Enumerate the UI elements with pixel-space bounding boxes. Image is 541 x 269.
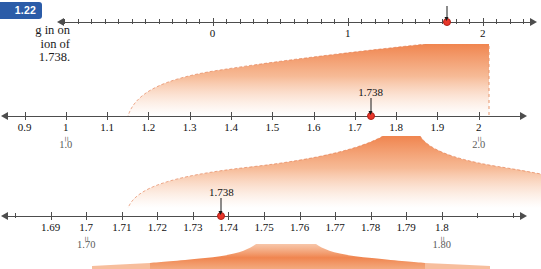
axis-tick-minor xyxy=(294,19,295,24)
axis-tick-minor xyxy=(240,19,241,24)
axis-tick-major xyxy=(228,212,229,220)
axis-tick-label: 1.7 xyxy=(348,121,362,133)
axis-tick-minor xyxy=(253,19,254,24)
axis-tick-major xyxy=(348,18,349,26)
marker-pointer-2 xyxy=(370,98,371,111)
axis-arrow-left-2 xyxy=(1,112,8,120)
axis-tick-minor xyxy=(145,19,146,24)
axis-tick-minor xyxy=(118,19,119,24)
axis-tick-major xyxy=(107,112,108,120)
marker-pointer-1 xyxy=(447,6,448,17)
axis-tick-minor xyxy=(91,19,92,24)
axis-tick-label: 1.3 xyxy=(183,121,197,133)
axis-tick-major xyxy=(193,212,194,220)
axis-tick-label: 2 xyxy=(476,121,482,133)
axis-tick-minor xyxy=(159,19,160,24)
axis-tick-major xyxy=(396,112,397,120)
zoom-funnel-1 xyxy=(0,44,541,116)
axis-tick-minor xyxy=(267,19,268,24)
axis-arrow-right-1 xyxy=(530,18,537,26)
axis-tick-major xyxy=(406,212,407,220)
axis-tick-minor xyxy=(429,19,430,24)
axis-tick-minor xyxy=(226,19,227,24)
axis-tick-minor xyxy=(496,19,497,24)
marker-value-label-3: 1.738 xyxy=(209,186,234,198)
axis-tick-minor xyxy=(132,19,133,24)
axis-tick-minor xyxy=(199,19,200,24)
axis-tick-major xyxy=(213,18,214,26)
axis-tick-minor xyxy=(388,19,389,24)
axis-tick-major xyxy=(66,112,67,120)
axis-tick-major xyxy=(355,112,356,120)
axis-tick-major xyxy=(483,18,484,26)
axis-tick-minor xyxy=(334,19,335,24)
axis-tick-minor xyxy=(513,213,514,218)
figure-canvas: 1.22 g in on ion of 1.738. xyxy=(0,0,541,269)
zoom-funnel-2 xyxy=(0,136,541,208)
axis-tick-major xyxy=(272,112,273,120)
axis-tick-sublabel: 2.0 xyxy=(472,139,485,150)
axis-tick-sublabel: 1.80 xyxy=(433,239,451,250)
axis-tick-label: 1 xyxy=(63,121,69,133)
axis-tick-minor xyxy=(307,19,308,24)
axis-arrow-right-2 xyxy=(520,112,527,120)
axis-tick-label: 1.1 xyxy=(100,121,114,133)
axis-tick-minor xyxy=(510,19,511,24)
figure-number-badge: 1.22 xyxy=(0,2,42,19)
axis-tick-major xyxy=(86,212,87,220)
axis-tick-label: 1.7 xyxy=(79,221,93,233)
axis-tick-major xyxy=(25,112,26,120)
axis-tick-label: 1.78 xyxy=(361,221,380,233)
axis-tick-label: 1.8 xyxy=(435,221,449,233)
axis-tick-minor xyxy=(172,19,173,24)
axis-tick-sublabel: 1.70 xyxy=(77,239,95,250)
axis-tick-label: 1.9 xyxy=(431,121,445,133)
axis-tick-major xyxy=(157,212,158,220)
axis-tick-major xyxy=(51,212,52,220)
axis-tick-label: 1 xyxy=(345,27,351,39)
axis-tick-major xyxy=(442,212,443,220)
axis-tick-minor xyxy=(523,19,524,24)
axis-tick-label: 1.4 xyxy=(224,121,238,133)
axis-tick-minor xyxy=(105,19,106,24)
axis-tick-major xyxy=(300,212,301,220)
axis-tick-label: 1.71 xyxy=(112,221,131,233)
axis-tick-label: 1.69 xyxy=(41,221,60,233)
axis-tick-minor xyxy=(456,19,457,24)
axis-tick-minor xyxy=(64,19,65,24)
axis-tick-label: 0.9 xyxy=(18,121,32,133)
marker-pointer-3 xyxy=(221,198,222,211)
caption-line-1: g in on xyxy=(0,24,72,38)
axis-tick-minor xyxy=(520,113,521,118)
axis-tick-minor xyxy=(321,19,322,24)
axis-tick-label: 2 xyxy=(480,27,486,39)
axis-tick-minor xyxy=(186,19,187,24)
axis-tick-label: 1.75 xyxy=(254,221,273,233)
axis-tick-label: 1.2 xyxy=(142,121,156,133)
axis-tick-major xyxy=(190,112,191,120)
axis-tick-major xyxy=(264,212,265,220)
axis-tick-minor xyxy=(415,19,416,24)
axis-arrow-right-3 xyxy=(520,212,527,220)
axis-tick-major xyxy=(231,112,232,120)
axis-tick-major xyxy=(122,212,123,220)
axis-tick-minor xyxy=(477,213,478,218)
axis-tick-major xyxy=(314,112,315,120)
axis-tick-label: 1.8 xyxy=(389,121,403,133)
axis-tick-major xyxy=(437,112,438,120)
axis-tick-major xyxy=(371,212,372,220)
axis-tick-minor xyxy=(280,19,281,24)
axis-tick-minor xyxy=(469,19,470,24)
axis-tick-minor xyxy=(78,19,79,24)
axis-tick-label: 1.5 xyxy=(265,121,279,133)
axis-tick-major xyxy=(479,112,480,120)
axis-tick-label: 1.77 xyxy=(325,221,344,233)
axis-tick-label: 1.72 xyxy=(148,221,167,233)
axis-tick-minor xyxy=(402,19,403,24)
axis-tick-label: 1.73 xyxy=(183,221,202,233)
axis-tick-label: 1.6 xyxy=(307,121,321,133)
axis-tick-minor xyxy=(15,213,16,218)
axis-tick-minor xyxy=(375,19,376,24)
axis-tick-label: 1.79 xyxy=(397,221,416,233)
axis-tick-label: 0 xyxy=(210,27,216,39)
